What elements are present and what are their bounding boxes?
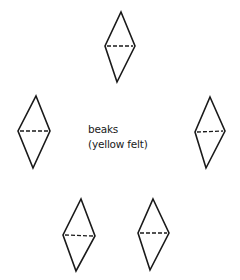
- diagram-label: beaks (yellow felt): [88, 122, 148, 152]
- beak-bottom-left-shape: [63, 199, 95, 271]
- beak-bottom-right-shape: [138, 199, 169, 270]
- beak-pattern-diagram: beaks (yellow felt): [0, 0, 240, 280]
- diamond-outline: [18, 96, 50, 168]
- fold-line: [65, 235, 93, 236]
- beak-left-shape: [18, 96, 50, 168]
- diamond-outline: [138, 199, 169, 270]
- label-line-beaks: beaks: [88, 122, 148, 137]
- label-line-material: (yellow felt): [88, 137, 148, 152]
- beak-right-shape: [195, 97, 225, 168]
- beak-top-shape: [105, 12, 135, 82]
- fold-line: [197, 131, 223, 132]
- diamond-outline: [105, 12, 135, 82]
